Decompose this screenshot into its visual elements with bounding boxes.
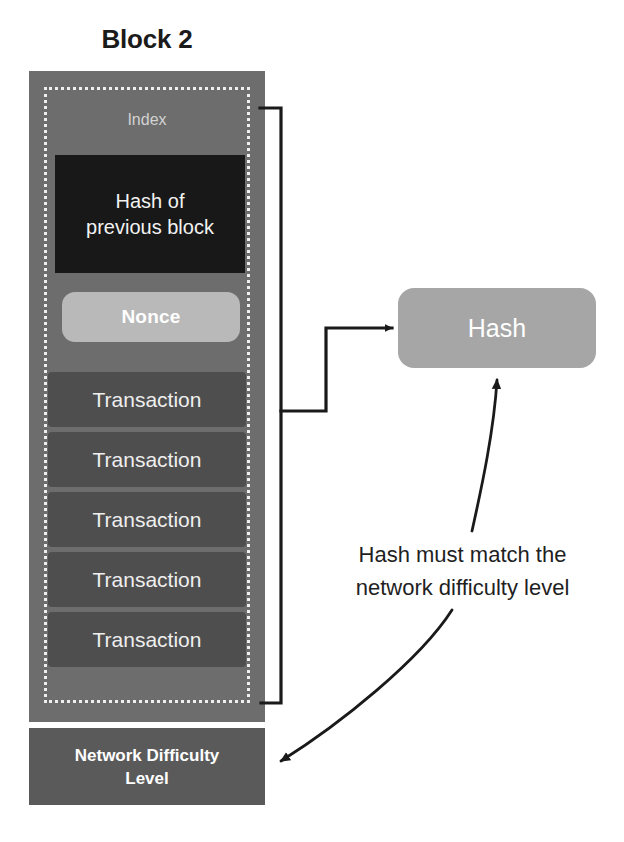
previous-block-hash-line-2: previous block (86, 214, 214, 240)
network-difficulty-level-box: Network Difficulty Level (29, 728, 265, 805)
previous-block-hash-box: Hash of previous block (55, 155, 245, 273)
caption-text: Hash must match the network difficulty l… (310, 538, 615, 604)
network-difficulty-line-1: Network Difficulty (75, 744, 220, 767)
transaction-label: Transaction (93, 448, 202, 472)
transaction-row: Transaction (48, 612, 246, 667)
hash-node-box: Hash (398, 288, 596, 368)
transaction-label: Transaction (93, 508, 202, 532)
transaction-label: Transaction (93, 628, 202, 652)
previous-block-hash-label: Hash of previous block (86, 188, 214, 240)
transaction-label: Transaction (93, 388, 202, 412)
caption-to-difficulty-curved-arrow (281, 610, 452, 761)
diagram-canvas: Block 2 Index Hash of previous block Non… (0, 0, 624, 842)
previous-block-hash-line-1: Hash of (86, 188, 214, 214)
network-difficulty-level-label: Network Difficulty Level (75, 744, 220, 790)
block-to-hash-arrow-wire (281, 328, 392, 411)
block-title: Block 2 (29, 24, 265, 55)
nonce-label: Nonce (121, 306, 180, 328)
transaction-row: Transaction (48, 372, 246, 427)
network-difficulty-line-2: Level (75, 767, 220, 790)
caption-line-2: network difficulty level (310, 571, 615, 604)
index-label: Index (29, 111, 265, 129)
transaction-label: Transaction (93, 568, 202, 592)
caption-line-1: Hash must match the (310, 538, 615, 571)
hash-node-label: Hash (468, 314, 526, 343)
nonce-box: Nonce (62, 292, 240, 342)
transaction-row: Transaction (48, 432, 246, 487)
transaction-row: Transaction (48, 552, 246, 607)
transaction-row: Transaction (48, 492, 246, 547)
caption-to-hash-curved-arrow (472, 380, 497, 531)
